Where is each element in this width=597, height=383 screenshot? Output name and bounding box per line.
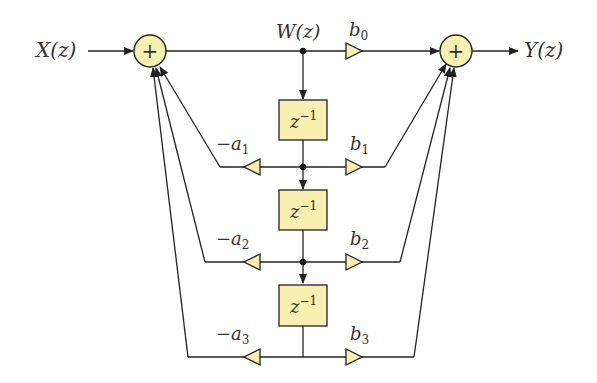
plus-icon: + bbox=[448, 39, 465, 63]
input-label: X(z) bbox=[34, 38, 76, 62]
gain-a2 bbox=[244, 254, 260, 270]
label-b1: b1 bbox=[350, 133, 369, 157]
plus-icon: + bbox=[142, 39, 159, 63]
gain-a1 bbox=[244, 159, 260, 175]
gain-b1 bbox=[346, 159, 362, 175]
left-adder: + bbox=[134, 35, 166, 67]
gain-b0 bbox=[346, 43, 362, 59]
iir-block-diagram: X(z) + W(z) b0 + Y(z) z−1 −a1 b1 z−1 −a2… bbox=[0, 0, 597, 383]
label-a3: −a3 bbox=[216, 323, 249, 347]
node-label: W(z) bbox=[276, 20, 320, 42]
gain-b3 bbox=[346, 349, 362, 365]
right-adder: + bbox=[440, 35, 472, 67]
label-a2: −a2 bbox=[216, 228, 249, 252]
gain-b2 bbox=[346, 254, 362, 270]
label-b2: b2 bbox=[350, 228, 369, 252]
output-label: Y(z) bbox=[524, 38, 563, 62]
label-b3: b3 bbox=[350, 323, 369, 347]
label-b0: b0 bbox=[349, 19, 368, 43]
gain-a3 bbox=[244, 349, 260, 365]
label-a1: −a1 bbox=[216, 133, 249, 157]
